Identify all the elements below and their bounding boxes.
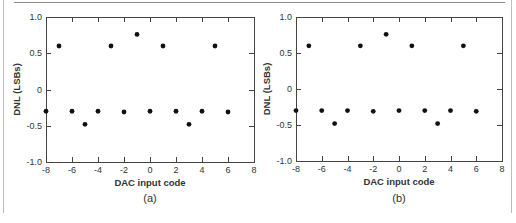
data-point [294, 108, 299, 113]
y-tick-label: -0.5 [276, 120, 292, 130]
y-tick-label: 0 [287, 84, 292, 94]
x-tick-label: -6 [318, 164, 326, 174]
y-axis-label: DNL (LSBs) [261, 63, 272, 116]
data-point [345, 108, 350, 113]
x-tick-label: 0 [396, 164, 401, 174]
data-point [474, 109, 479, 114]
y-tick-label: 0.5 [279, 48, 292, 58]
plot-frame [297, 18, 503, 162]
x-tick-label: 8 [499, 164, 504, 174]
x-axis-label: DAC input code [363, 176, 434, 187]
x-tick-label: 6 [474, 164, 479, 174]
data-point [371, 109, 376, 114]
y-tick-label: 1.0 [279, 12, 292, 22]
data-point [332, 121, 337, 126]
data-point [397, 108, 402, 113]
x-tick-label: 2 [422, 164, 427, 174]
x-tick-label: -8 [292, 164, 300, 174]
data-point [422, 108, 427, 113]
chart-panel-b: -8-6-4-2024681.00.50-0.5-1.0DAC input co… [0, 0, 256, 223]
y-tick-label: -1.0 [276, 156, 292, 166]
panel-caption-b: (b) [369, 192, 429, 204]
data-point [358, 43, 363, 48]
data-point [384, 32, 389, 37]
x-tick-label: -4 [343, 164, 351, 174]
data-point [461, 43, 466, 48]
x-tick-label: -2 [369, 164, 377, 174]
plot-area-b: -8-6-4-2024681.00.50-0.5-1.0DAC input co… [0, 0, 516, 223]
data-point [435, 121, 440, 126]
data-point [448, 108, 453, 113]
data-point [319, 108, 324, 113]
x-tick-label: 4 [448, 164, 453, 174]
data-point [306, 43, 311, 48]
data-point [409, 43, 414, 48]
